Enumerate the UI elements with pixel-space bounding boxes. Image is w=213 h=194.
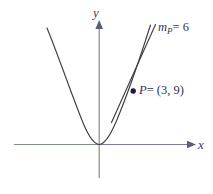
point-symbol: P: [139, 83, 147, 97]
math-figure: y x mP= 6 P= (3, 9): [0, 0, 213, 194]
slope-annotation: mP= 6: [158, 21, 189, 36]
y-axis-arrowhead: [95, 20, 103, 29]
x-axis-label: x: [198, 138, 204, 151]
x-axis-arrowhead: [187, 141, 196, 149]
point-coordinates: = (3, 9): [147, 83, 184, 97]
slope-value: = 6: [173, 20, 189, 34]
point-annotation: P= (3, 9): [139, 84, 184, 97]
point-marker-p: [131, 88, 136, 93]
slope-symbol: m: [158, 20, 167, 34]
tangent-line: [112, 25, 156, 123]
y-axis-label: y: [93, 6, 99, 19]
